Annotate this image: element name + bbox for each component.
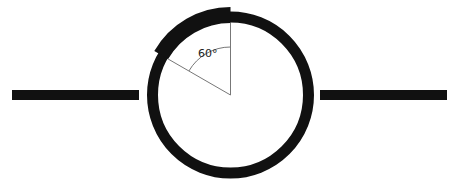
right-wire [320,90,447,100]
left-wire [12,90,139,100]
angle-label: 60° [198,47,218,60]
radius-line-angled [168,59,230,95]
thick-arc-segment [154,7,230,59]
diagram-canvas: 60° [0,0,461,184]
